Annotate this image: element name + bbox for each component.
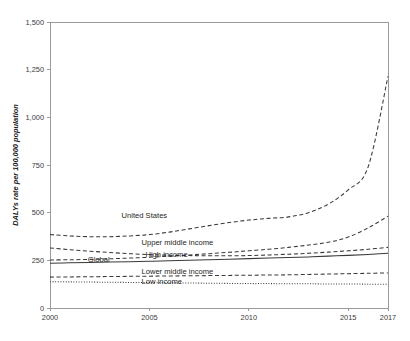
y-tick-label: 1,000 xyxy=(26,113,45,122)
x-axis-ticks: 20002005201020152017 xyxy=(42,308,396,322)
y-tick-label: 0 xyxy=(40,304,44,313)
series-line-upper-middle-income xyxy=(50,216,388,260)
series-label-upper-middle-income: Upper middle income xyxy=(141,238,213,247)
series-lines xyxy=(50,76,388,284)
line-chart: 02505007501,0001,2501,500 20002005201020… xyxy=(0,0,410,341)
series-label-global: Global xyxy=(88,255,110,264)
y-tick-label: 250 xyxy=(32,256,44,265)
x-tick-label: 2017 xyxy=(380,313,396,322)
y-tick-label: 500 xyxy=(32,208,44,217)
y-axis-title: DALYs rate per 100,000 population xyxy=(11,104,20,226)
y-axis-ticks: 02505007501,0001,2501,500 xyxy=(26,18,51,313)
series-label-lower-middle-income: Lower middle income xyxy=(141,267,213,276)
series-inline-labels: United StatesUpper middle incomeHigh inc… xyxy=(88,211,213,285)
x-tick-label: 2015 xyxy=(340,313,356,322)
plot-axes xyxy=(50,22,388,308)
y-tick-label: 1,250 xyxy=(26,65,45,74)
series-line-lower-middle-income xyxy=(50,273,388,277)
series-label-low-income: Low income xyxy=(141,277,182,286)
x-tick-label: 2005 xyxy=(141,313,157,322)
series-line-united-states xyxy=(50,76,388,236)
x-tick-label: 2000 xyxy=(42,313,58,322)
y-tick-label: 750 xyxy=(32,161,44,170)
chart-container: 02505007501,0001,2501,500 20002005201020… xyxy=(0,0,410,341)
x-tick-label: 2010 xyxy=(241,313,257,322)
series-line-low-income xyxy=(50,282,388,284)
axis-frame xyxy=(50,22,388,308)
y-tick-label: 1,500 xyxy=(26,18,45,27)
series-label-united-states: United States xyxy=(122,211,168,220)
series-label-high-income: High income xyxy=(145,250,187,259)
